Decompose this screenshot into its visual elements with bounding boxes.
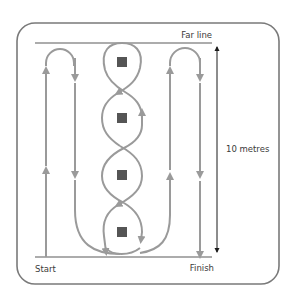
cone-marker-1 bbox=[117, 57, 127, 67]
left-turn-arc bbox=[46, 49, 74, 66]
center-weave-path bbox=[102, 43, 142, 254]
center-to-right-curve bbox=[140, 176, 170, 253]
weave-loop-1 bbox=[104, 43, 141, 93]
left-to-center-curve bbox=[75, 180, 120, 254]
right-turn-arc bbox=[170, 48, 200, 66]
left-shuttle-path bbox=[46, 49, 120, 257]
finish-label: Finish bbox=[190, 263, 214, 273]
cone-marker-3 bbox=[117, 170, 127, 180]
drill-diagram: Far line Start Finish 10 metres bbox=[0, 0, 291, 304]
right-shuttle-path bbox=[140, 48, 200, 255]
weave-loop-4-left bbox=[104, 205, 118, 252]
start-label: Start bbox=[35, 264, 56, 274]
distance-label: 10 metres bbox=[226, 144, 270, 154]
cone-marker-4 bbox=[117, 227, 127, 237]
cone-marker-2 bbox=[117, 113, 127, 123]
far-line-label: Far line bbox=[181, 30, 212, 40]
weave-base bbox=[106, 248, 140, 254]
